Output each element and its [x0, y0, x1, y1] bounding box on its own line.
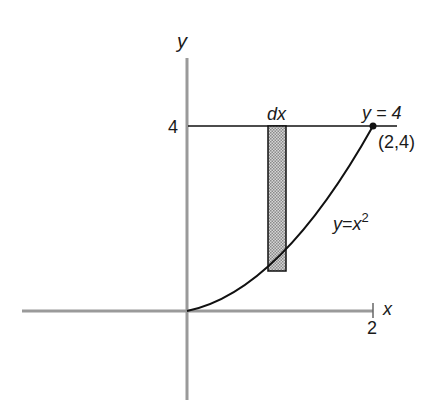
strip-label-dx: dx [267, 104, 287, 124]
region-diagram: y 4 x 2 dx y = 4 (2,4) y=x2 [0, 0, 446, 414]
point-label: (2,4) [378, 132, 415, 152]
curve-label: y=x2 [331, 210, 369, 234]
x-tick-label-2: 2 [367, 318, 377, 338]
y-tick-label-4: 4 [168, 117, 178, 137]
line-label-text: y = 4 [360, 103, 402, 123]
strip-dx [268, 126, 286, 271]
curve-label-exp: 2 [362, 210, 369, 225]
line-label-y-equals-4: y = 4 [360, 103, 402, 123]
point-2-4 [370, 123, 377, 130]
x-axis-label: x [382, 299, 393, 319]
y-axis-label: y [175, 30, 188, 52]
diagram-canvas: y 4 x 2 dx y = 4 (2,4) y=x2 [0, 0, 446, 414]
curve-label-eq: = [342, 214, 353, 234]
